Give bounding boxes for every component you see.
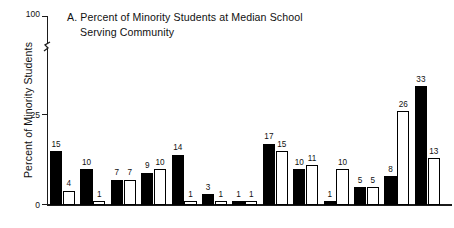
bar-group-1-open: [63, 191, 75, 205]
bar-group-3-filled: [111, 180, 123, 205]
bar-value-label-group-6-open: 1: [211, 191, 230, 199]
bar-group-4-open: [154, 169, 166, 205]
bar-value-label-group-5-filled: 14: [168, 144, 187, 152]
bar-value-label-group-1-open: 4: [59, 180, 78, 188]
bar-group-13-open: [428, 158, 440, 205]
bar-group-3-open: [124, 180, 136, 205]
bar-group-10-open: [336, 169, 348, 205]
bar-value-label-group-8-open: 15: [272, 141, 291, 149]
bar-value-label-group-13-filled: 33: [411, 76, 430, 84]
bar-group-13-filled: [415, 86, 427, 205]
bar-group-7-filled: [232, 201, 244, 205]
bar-group-11-open: [367, 187, 379, 205]
bar-value-label-group-5-open: 1: [181, 191, 200, 199]
y-tick-label-100: 100: [16, 9, 40, 19]
plot-area: 15410177910141311117151011110558263313: [47, 12, 452, 205]
bar-group-9-filled: [293, 169, 305, 205]
bar-value-label-group-1-filled: 15: [47, 141, 66, 149]
bar-group-8-filled: [263, 144, 275, 205]
bar-group-12-filled: [384, 176, 396, 205]
bar-group-2-filled: [80, 169, 92, 205]
y-tick-label-25: 25: [16, 110, 40, 120]
bar-value-label-group-3-open: 7: [120, 169, 139, 177]
bar-group-1-filled: [50, 151, 62, 205]
bar-group-12-open: [397, 111, 409, 205]
chart-figure: Percent of Minority Students 100 25 0 A.…: [0, 0, 454, 228]
y-tick-label-0: 0: [16, 200, 40, 210]
bar-value-label-group-2-filled: 10: [77, 159, 96, 167]
bar-value-label-group-7-open: 1: [242, 191, 261, 199]
bar-value-label-group-13-open: 13: [424, 148, 443, 156]
bar-value-label-group-11-open: 5: [363, 177, 382, 185]
bar-value-label-group-9-open: 11: [303, 155, 322, 163]
bar-group-7-open: [245, 201, 257, 205]
bar-group-5-open: [184, 201, 196, 205]
bar-group-9-open: [306, 165, 318, 205]
bar-group-10-filled: [324, 201, 336, 205]
bar-value-label-group-4-open: 10: [151, 159, 170, 167]
bar-group-4-filled: [141, 173, 153, 205]
bar-value-label-group-12-open: 26: [394, 101, 413, 109]
bar-group-8-open: [276, 151, 288, 205]
bar-group-11-filled: [354, 187, 366, 205]
bar-value-label-group-10-open: 10: [333, 159, 352, 167]
bar-group-6-open: [215, 201, 227, 205]
bar-group-2-open: [93, 201, 105, 205]
bar-value-label-group-2-open: 1: [90, 191, 109, 199]
